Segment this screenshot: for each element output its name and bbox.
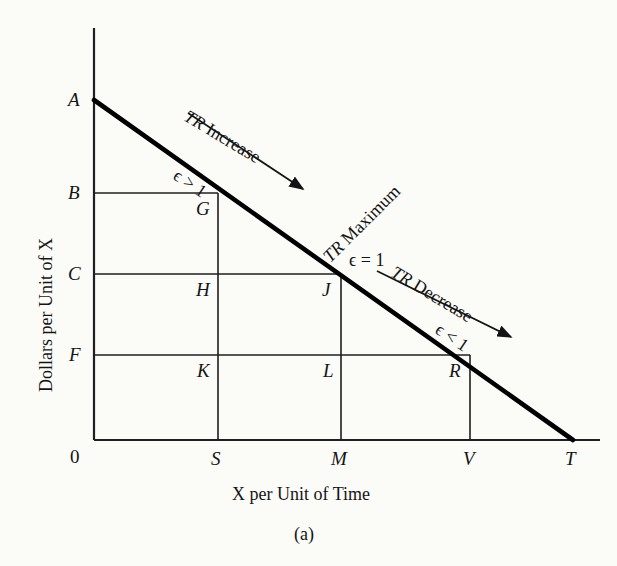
figure-caption: (a) bbox=[294, 524, 314, 545]
demand-elasticity-figure: A B C F 0 S M V T G H J K L R TR Increas… bbox=[0, 0, 617, 566]
chart-canvas bbox=[0, 0, 617, 566]
point-label-r: R bbox=[449, 361, 461, 380]
x-tick-label-v: V bbox=[463, 449, 475, 468]
x-tick-label-s: S bbox=[211, 449, 221, 468]
y-axis-title: Dollars per Unit of X bbox=[36, 238, 57, 392]
y-tick-label-a: A bbox=[68, 90, 80, 109]
x-tick-label-m: M bbox=[331, 449, 347, 468]
y-axis-title-text: Dollars per Unit of X bbox=[36, 238, 56, 392]
point-label-h: H bbox=[196, 280, 210, 299]
elasticity-unit-label: ϵ = 1 bbox=[349, 250, 384, 271]
point-label-k: K bbox=[197, 361, 210, 380]
point-label-l: L bbox=[323, 361, 334, 380]
y-tick-label-c: C bbox=[68, 264, 81, 283]
point-label-j: J bbox=[322, 280, 330, 299]
x-tick-label-t: T bbox=[565, 449, 576, 468]
y-tick-label-b: B bbox=[68, 183, 80, 202]
origin-label: 0 bbox=[70, 447, 80, 466]
x-axis-title: X per Unit of Time bbox=[232, 484, 370, 505]
y-tick-label-f: F bbox=[69, 345, 81, 364]
demand-curve bbox=[94, 100, 573, 440]
